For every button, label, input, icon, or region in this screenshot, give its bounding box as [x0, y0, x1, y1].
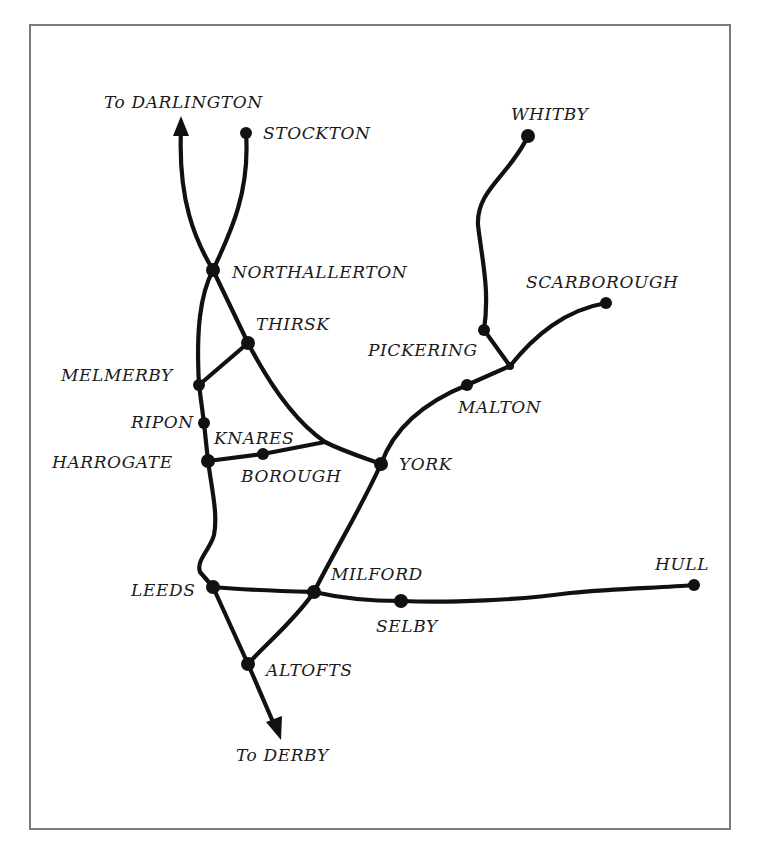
station-ripon[interactable] [198, 417, 210, 429]
station-labels: To DARLINGTON STOCKTON NORTHALLERTON THI… [51, 92, 709, 765]
junction-malton [506, 362, 514, 370]
station-thirsk[interactable] [241, 336, 255, 350]
label-milford: MILFORD [330, 564, 423, 584]
label-york: YORK [399, 454, 453, 474]
label-melmerby: MELMERBY [60, 365, 174, 385]
label-selby: SELBY [376, 616, 439, 636]
label-harrogate: HARROGATE [51, 452, 173, 472]
label-malton: MALTON [457, 397, 542, 417]
station-leeds[interactable] [206, 580, 220, 594]
line-milford-altofts [248, 592, 314, 664]
station-pickering[interactable] [478, 324, 490, 336]
label-pickering: PICKERING [367, 340, 478, 360]
line-northallerton-darlington [181, 130, 213, 270]
station-whitby[interactable] [521, 129, 535, 143]
station-scarborough[interactable] [600, 297, 612, 309]
line-junction-pickering [484, 330, 510, 366]
station-knaresborough[interactable] [257, 448, 269, 460]
arrow-up-icon [173, 116, 189, 136]
line-thirsk-melmerby [199, 343, 248, 385]
label-hull: HULL [654, 554, 709, 574]
label-whitby: WHITBY [511, 104, 590, 124]
label-leeds: LEEDS [130, 580, 195, 600]
line-leeds-milford [213, 587, 314, 592]
label-scarborough: SCARBOROUGH [526, 272, 679, 292]
line-harrogate-leeds [199, 461, 215, 587]
station-york[interactable] [374, 457, 388, 471]
station-milford[interactable] [307, 585, 321, 599]
label-ripon: RIPON [130, 412, 194, 432]
station-altofts[interactable] [241, 657, 255, 671]
station-selby[interactable] [394, 594, 408, 608]
label-stockton: STOCKTON [263, 123, 371, 143]
arrow-down-icon [266, 716, 282, 740]
line-malton-scarborough [510, 303, 606, 366]
station-stockton[interactable] [240, 127, 252, 139]
label-darlington: To DARLINGTON [104, 92, 263, 112]
station-harrogate[interactable] [201, 454, 215, 468]
label-northallerton: NORTHALLERTON [231, 262, 408, 282]
label-borough: BOROUGH [240, 466, 342, 486]
line-northallerton-stockton [213, 133, 247, 270]
line-pickering-whitby [478, 136, 528, 330]
station-malton[interactable] [461, 379, 473, 391]
station-northallerton[interactable] [206, 263, 220, 277]
line-leeds-altofts [213, 587, 248, 664]
label-thirsk: THIRSK [256, 314, 330, 334]
label-altofts: ALTOFTS [264, 660, 352, 680]
line-milford-hull [314, 585, 694, 602]
label-derby: To DERBY [236, 745, 330, 765]
railway-map: To DARLINGTON STOCKTON NORTHALLERTON THI… [0, 0, 757, 850]
label-knares: KNARES [213, 428, 294, 448]
line-northallerton-melmerby [198, 270, 213, 385]
station-melmerby[interactable] [193, 379, 205, 391]
station-hull[interactable] [688, 579, 700, 591]
